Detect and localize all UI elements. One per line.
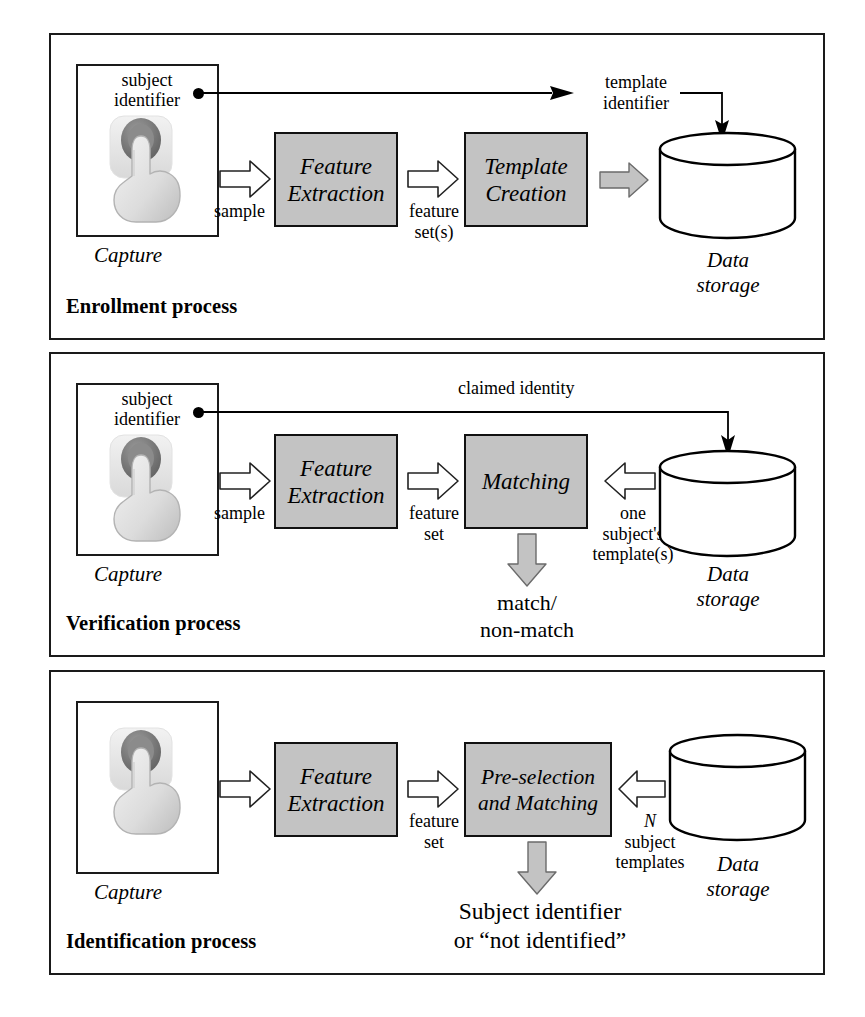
output-match-result-verification: match/ non-match	[456, 589, 598, 643]
output-line1: match/	[456, 589, 598, 616]
data-storage-cylinder-identification	[667, 732, 809, 850]
flow-label-line2: set	[404, 832, 464, 853]
process-label-line1: Pre-selection	[478, 764, 598, 790]
link-label-template-identifier: template identifier	[588, 72, 684, 113]
finger-on-sensor-icon-verification	[100, 429, 204, 549]
capture-label-enrollment: Capture	[94, 243, 162, 268]
flow-label-feature-set-verification: feature set	[404, 503, 464, 544]
process-label-line2: Extraction	[287, 180, 384, 207]
process-box-template-creation-enrollment: Template Creation	[464, 132, 588, 227]
storage-label-line2: storage	[672, 273, 784, 298]
storage-label-line1: Data	[682, 852, 794, 877]
link-label-line1: template	[588, 72, 684, 93]
arrow-feature-extraction-to-matching-verification	[406, 460, 460, 502]
output-line1: Subject identifier	[420, 897, 660, 926]
capture-label-verification: Capture	[94, 562, 162, 587]
flow-label-line2: set	[404, 524, 464, 545]
output-line2: non-match	[456, 616, 598, 643]
arrow-matching-to-result-verification	[506, 532, 548, 588]
subject-identifier-label-verification: subject identifier	[88, 389, 206, 429]
link-label-line2: identifier	[588, 93, 684, 114]
storage-label-line2: storage	[682, 877, 794, 902]
panel-caption-enrollment: Enrollment process	[66, 295, 237, 318]
flow-label-sample-verification: sample	[214, 503, 265, 524]
process-label-line2: and Matching	[478, 790, 598, 816]
output-identification-result: Subject identifier or “not identified”	[420, 897, 660, 955]
finger-on-sensor-icon-enrollment	[100, 110, 204, 230]
process-label-line1: Matching	[482, 468, 570, 495]
subject-identifier-line2: identifier	[88, 90, 206, 110]
process-label-line1: Feature	[287, 763, 384, 790]
output-line2: or “not identified”	[420, 926, 660, 955]
arrow-preselection-to-result-identification	[516, 840, 558, 896]
flow-label-line2: set(s)	[404, 222, 464, 243]
flow-label-feature-sets-enrollment: feature set(s)	[404, 201, 464, 242]
flow-label-line1: feature	[404, 201, 464, 222]
capture-label-identification: Capture	[94, 880, 162, 905]
subject-identifier-line1: subject	[88, 70, 206, 90]
subject-identifier-label-enrollment: subject identifier	[88, 70, 206, 110]
flow-label-feature-set-identification: feature set	[404, 811, 464, 852]
data-storage-cylinder-enrollment	[657, 130, 799, 248]
storage-label-line1: Data	[672, 562, 784, 587]
flow-label-sample-enrollment: sample	[214, 201, 265, 222]
arrow-template-creation-to-storage-enrollment	[598, 160, 650, 200]
link-label-claimed-identity: claimed identity	[458, 378, 574, 399]
arrow-feature-extraction-to-preselection-identification	[406, 768, 460, 810]
arrow-capture-to-feature-extraction-verification	[218, 460, 272, 502]
process-box-preselection-and-matching-identification: Pre-selection and Matching	[464, 742, 612, 837]
finger-on-sensor-icon-identification	[100, 722, 204, 842]
data-storage-label-enrollment: Data storage	[672, 248, 784, 298]
panel-caption-identification: Identification process	[66, 930, 256, 953]
subject-identifier-line1: subject	[88, 389, 206, 409]
flow-label-line1: feature	[404, 811, 464, 832]
arrow-capture-to-feature-extraction-enrollment	[218, 158, 272, 200]
data-storage-label-verification: Data storage	[672, 562, 784, 612]
arrow-storage-to-preselection-identification	[617, 768, 667, 810]
arrow-capture-to-feature-extraction-identification	[218, 768, 272, 810]
storage-label-line2: storage	[672, 587, 784, 612]
connector-subject-identifier-to-template-identifier-enrollment	[196, 78, 576, 106]
arrow-feature-extraction-to-template-creation-enrollment	[406, 158, 460, 200]
process-label-line1: Feature	[287, 153, 384, 180]
diagram-canvas: subject identifier Capture sample Feat	[0, 0, 865, 1017]
subject-identifier-line2: identifier	[88, 409, 206, 429]
data-storage-cylinder-verification	[657, 448, 799, 566]
process-label-line1: Template	[484, 153, 568, 180]
data-storage-label-identification: Data storage	[682, 852, 794, 902]
panel-caption-verification: Verification process	[66, 612, 241, 635]
process-label-line2: Creation	[484, 180, 568, 207]
process-label-line2: Extraction	[287, 790, 384, 817]
arrow-storage-to-matching-verification	[603, 460, 657, 502]
process-box-feature-extraction-identification: Feature Extraction	[274, 742, 398, 837]
flow-label-line1: feature	[404, 503, 464, 524]
process-label-line2: Extraction	[287, 482, 384, 509]
storage-label-line1: Data	[672, 248, 784, 273]
process-box-feature-extraction-enrollment: Feature Extraction	[274, 132, 398, 227]
